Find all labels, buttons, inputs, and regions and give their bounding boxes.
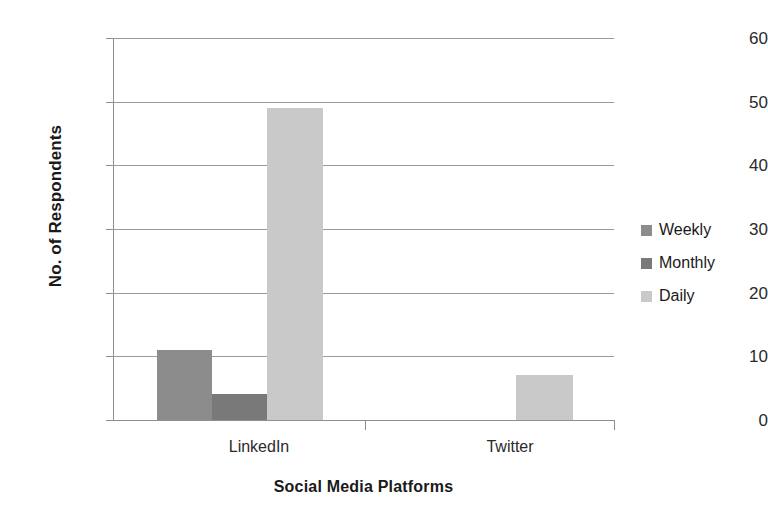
bar-linkedin-monthly: [212, 394, 267, 420]
y-tick-mark-50: [106, 102, 113, 103]
x-category-label-twitter: Twitter: [420, 438, 600, 456]
legend-label-monthly: Monthly: [659, 255, 715, 271]
legend-swatch-weekly: [641, 225, 652, 236]
y-tick-label-30: 30: [708, 221, 768, 238]
y-tick-mark-10: [106, 356, 113, 357]
y-tick-mark-40: [106, 165, 113, 166]
bar-twitter-daily: [516, 375, 573, 420]
bar-linkedin-daily: [267, 108, 323, 420]
gridline-50: [113, 102, 614, 103]
legend-swatch-daily: [641, 291, 652, 302]
bar-chart: No. of Respondents 60 50 40 30 20 10 0 L…: [0, 0, 768, 517]
plot-area: [113, 38, 614, 420]
x-axis-title: Social Media Platforms: [113, 478, 614, 496]
y-tick-label-50: 50: [708, 94, 768, 111]
y-tick-label-20: 20: [708, 285, 768, 302]
y-tick-mark-30: [106, 229, 113, 230]
legend-label-daily: Daily: [659, 288, 695, 304]
gridline-60: [113, 38, 614, 39]
x-axis-line: [113, 420, 615, 421]
x-axis-end-tick: [614, 420, 615, 430]
y-tick-label-60: 60: [708, 30, 768, 47]
bar-linkedin-weekly: [157, 350, 212, 420]
y-tick-mark-0: [106, 420, 113, 421]
x-category-label-linkedin: LinkedIn: [169, 438, 349, 456]
y-axis-title: No. of Respondents: [46, 76, 66, 336]
gridline-20: [113, 293, 614, 294]
legend-item-monthly: Monthly: [641, 255, 715, 271]
y-tick-mark-60: [106, 38, 113, 39]
legend-item-weekly: Weekly: [641, 222, 711, 238]
gridline-40: [113, 165, 614, 166]
y-tick-label-40: 40: [708, 157, 768, 174]
y-tick-mark-20: [106, 293, 113, 294]
gridline-30: [113, 229, 614, 230]
y-tick-label-10: 10: [708, 348, 768, 365]
y-tick-label-0: 0: [708, 412, 768, 429]
legend-label-weekly: Weekly: [659, 222, 711, 238]
legend-swatch-monthly: [641, 258, 652, 269]
legend-item-daily: Daily: [641, 288, 695, 304]
x-axis-category-divider: [365, 420, 366, 430]
